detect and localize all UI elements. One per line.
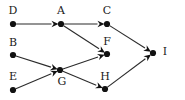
- labels-layer: DACBFIEGH: [9, 4, 168, 88]
- arrowhead-c-to-i: [143, 45, 151, 51]
- node-i[interactable]: [150, 50, 156, 56]
- edge-g-to-f: [63, 57, 98, 69]
- arrowhead-b-to-g: [50, 64, 58, 70]
- arrowhead-g-to-f: [97, 54, 105, 60]
- node-g[interactable]: [57, 67, 63, 73]
- node-label-c: C: [103, 4, 111, 17]
- node-f[interactable]: [104, 51, 110, 57]
- edge-e-to-g: [16, 74, 51, 89]
- arrowhead-a-to-c: [98, 21, 105, 27]
- edge-a-to-f: [64, 26, 99, 49]
- arrowhead-h-to-i: [143, 55, 151, 62]
- edge-h-to-i: [107, 59, 145, 87]
- node-a[interactable]: [58, 21, 64, 27]
- node-b[interactable]: [10, 52, 16, 58]
- node-c[interactable]: [104, 21, 110, 27]
- arrowhead-d-to-a: [52, 21, 59, 27]
- node-label-e: E: [9, 70, 17, 83]
- node-label-d: D: [9, 4, 18, 17]
- edge-g-to-h: [63, 71, 96, 85]
- edge-c-to-i: [110, 26, 145, 48]
- node-e[interactable]: [10, 87, 16, 93]
- directed-graph-diagram: DACBFIEGH: [0, 0, 185, 100]
- node-label-g: G: [58, 75, 67, 88]
- node-label-h: H: [100, 70, 110, 83]
- edge-b-to-g: [16, 56, 51, 67]
- edges-layer: [16, 21, 151, 89]
- node-label-f: F: [103, 35, 111, 48]
- node-h[interactable]: [102, 86, 108, 92]
- node-label-a: A: [56, 4, 66, 17]
- node-label-b: B: [9, 36, 17, 49]
- node-d[interactable]: [10, 21, 16, 27]
- node-label-i: I: [163, 45, 167, 58]
- graph-canvas: DACBFIEGH: [0, 0, 185, 100]
